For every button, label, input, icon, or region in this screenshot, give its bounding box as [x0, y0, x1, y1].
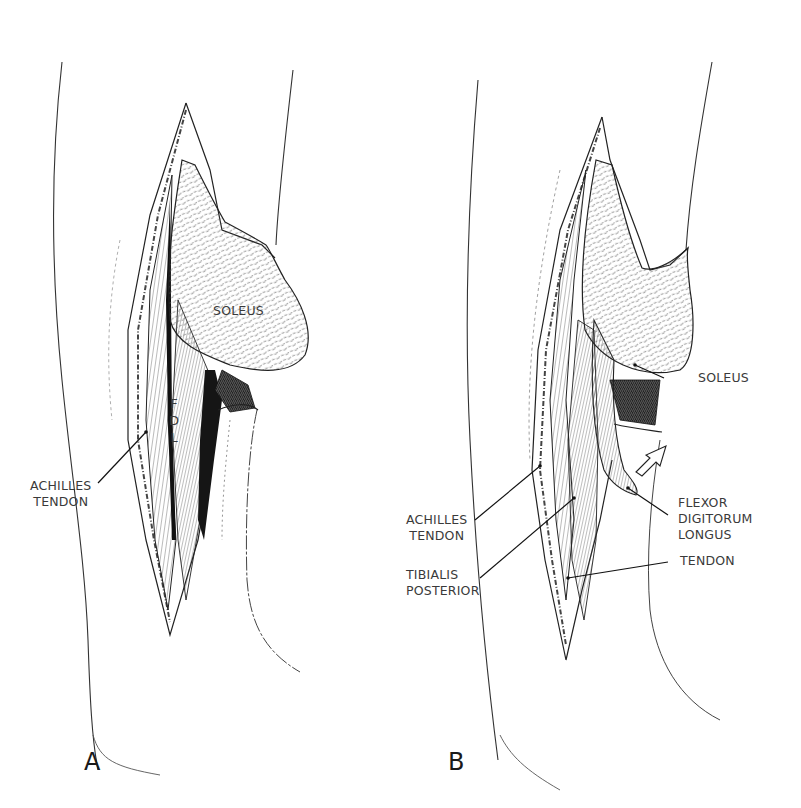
illustration-drawing [0, 0, 801, 808]
panel-b-drawing [467, 62, 720, 790]
anatomical-illustration: SOLEUS F D L ACHILLES TENDON A SOLEUS AC… [0, 0, 801, 808]
panel-b-flexor-digitorum-longus-label: FLEXOR DIGITORUM LONGUS [678, 495, 753, 543]
panel-b-tibialis-posterior-label: TIBIALIS POSTERIOR [406, 567, 480, 599]
panel-b-achilles-tendon-label: ACHILLES TENDON [406, 512, 468, 544]
panel-b-letter: B [448, 748, 464, 776]
panel-b-tendon-label: TENDON [680, 553, 735, 569]
fdl-letter-f: F [168, 395, 180, 412]
panel-a-drawing [54, 62, 309, 775]
panel-a-letter: A [84, 748, 100, 776]
fdl-letter-d: D [168, 412, 180, 429]
panel-a-soleus-label: SOLEUS [213, 303, 264, 319]
panel-a-fdl-label: F D L [168, 395, 180, 446]
panel-a-achilles-tendon-label: ACHILLES TENDON [30, 478, 92, 510]
panel-b-soleus-label: SOLEUS [698, 370, 749, 386]
fdl-letter-l: L [168, 429, 180, 446]
